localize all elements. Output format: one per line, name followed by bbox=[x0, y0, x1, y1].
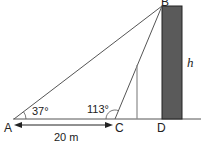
label-D: D bbox=[157, 121, 166, 135]
label-A: A bbox=[4, 121, 12, 135]
arrow-head-right bbox=[105, 122, 113, 128]
label-angle-C: 113° bbox=[87, 103, 109, 115]
diagram-canvas: B h A C D 37° 113° 20 m bbox=[0, 0, 201, 146]
angle-arc-A bbox=[24, 112, 27, 119]
tower bbox=[162, 6, 182, 119]
label-angle-A: 37° bbox=[32, 105, 49, 117]
label-distance-AC: 20 m bbox=[54, 131, 78, 143]
arrow-head-left bbox=[14, 122, 22, 128]
label-C: C bbox=[115, 121, 124, 135]
label-B: B bbox=[161, 0, 169, 9]
line-CB bbox=[115, 6, 162, 119]
label-h: h bbox=[187, 55, 194, 70]
